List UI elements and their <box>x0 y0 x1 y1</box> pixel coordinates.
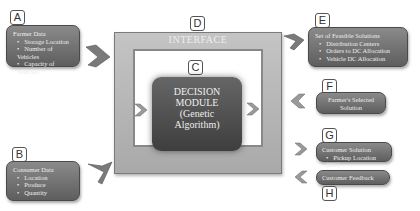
label-c: C <box>188 60 203 75</box>
list-item: Pickup Location (DC) <box>326 154 386 169</box>
label-b: B <box>12 147 27 162</box>
consumer-data-title: Consumer Data <box>13 166 73 174</box>
decision-module: DECISION MODULE (Genetic Algorithm) <box>152 77 242 151</box>
list-item: Storage Location <box>17 38 73 46</box>
chevron-left-icon <box>294 170 308 184</box>
customer-feedback-title: Customer Feedback <box>322 174 384 182</box>
label-h: H <box>322 186 337 201</box>
list-item: Produce <box>17 181 73 189</box>
customer-feedback-box: Customer Feedback <box>316 170 390 185</box>
core-line-3: (Genetic <box>152 108 242 119</box>
feasible-solutions-box: Set of Feasible Solutions Distribution C… <box>308 27 408 67</box>
chevron-right-icon <box>246 102 260 116</box>
list-item: Capacity of Vehicles <box>17 60 73 75</box>
list-item: Number of Vehicles <box>17 45 73 60</box>
list-item: Vehicle DC Allocation <box>319 55 401 63</box>
customer-solution-box: Customer Solution Pickup Location (DC) <box>316 142 392 162</box>
list-item: Orders to DC Allocation <box>319 47 401 55</box>
list-item: Distribution Centers <box>319 40 401 48</box>
label-e: E <box>315 13 330 28</box>
chevron-right-icon <box>134 103 148 117</box>
farmer-data-box: Farmer Data Storage Location Number of V… <box>6 25 80 67</box>
consumer-data-box: Consumer Data Location Produce Quantity <box>6 161 80 201</box>
farmer-selected-line-1: Farmer's Selected <box>321 96 381 104</box>
core-line-2: MODULE <box>152 97 242 108</box>
list-item: Quantity <box>17 189 73 197</box>
farmer-data-title: Farmer Data <box>13 30 73 38</box>
arrow-right-icon <box>282 28 306 52</box>
chevron-left-icon <box>290 93 306 109</box>
label-g: G <box>322 128 337 143</box>
list-item: Location <box>17 174 73 182</box>
label-a: A <box>10 10 25 25</box>
arrow-right-icon <box>86 160 114 186</box>
feasible-solutions-title: Set of Feasible Solutions <box>315 32 401 40</box>
arrow-right-icon <box>84 43 112 69</box>
interface-title: INTERFACE <box>115 34 281 45</box>
core-line-4: Algorithm) <box>152 119 242 130</box>
chevron-right-icon <box>294 142 308 156</box>
farmer-selected-line-2: Solution <box>321 104 381 112</box>
label-d: D <box>190 16 205 31</box>
customer-solution-title: Customer Solution <box>322 146 386 154</box>
farmer-selected-solution-box: Farmer's Selected Solution <box>316 92 386 114</box>
core-line-1: DECISION <box>152 86 242 97</box>
